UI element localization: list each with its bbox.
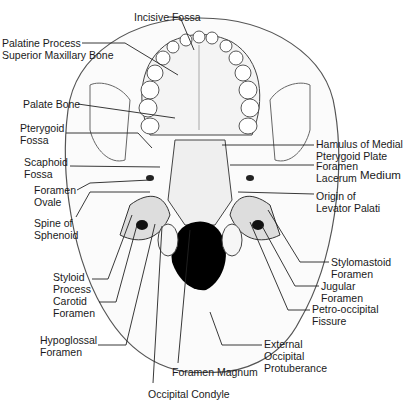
label-pterygoid-fossa: Pterygoid Fossa [20,122,64,146]
skull-base-diagram: Incisive Fossa Palatine Process Superior… [0,0,405,404]
label-palate-bone: Palate Bone [23,98,80,110]
label-foramen-ovale: Foramen Ovale [34,184,76,208]
label-petro-occipital-fissure: Petro-occipital Fissure [312,303,379,327]
label-styloid-process: Styloid Process [53,271,91,295]
label-foramen-lacerum-medium: Medium [360,169,401,181]
label-hypoglossal-foramen: Hypoglossal Foramen [40,334,97,358]
label-occipital-condyle: Occipital Condyle [148,388,230,400]
label-scaphoid-fossa: Scaphoid Fossa [24,156,68,180]
label-hamulus-medial-pterygoid: Hamulus of Medial Pterygoid Plate [316,138,403,162]
label-stylomastoid-foramen: Stylomastoid Foramen [331,256,391,280]
label-jugular-foramen: Jugular Foramen [321,280,363,304]
label-foramen-lacerum: Foramen Lacerum [316,160,358,184]
label-external-occipital-protuberance: External Occipital Protuberance [264,338,327,374]
label-carotid-foramen: Carotid Foramen [53,295,95,319]
label-palatine-process: Palatine Process Superior Maxillary Bone [2,37,113,61]
label-incisive-fossa: Incisive Fossa [134,11,201,23]
label-origin-levator-palati: Origin of Levator Palati [316,190,380,214]
label-spine-of-sphenoid: Spine of Sphenoid [34,217,78,241]
label-foramen-magnum: Foramen Magnum [172,366,258,378]
